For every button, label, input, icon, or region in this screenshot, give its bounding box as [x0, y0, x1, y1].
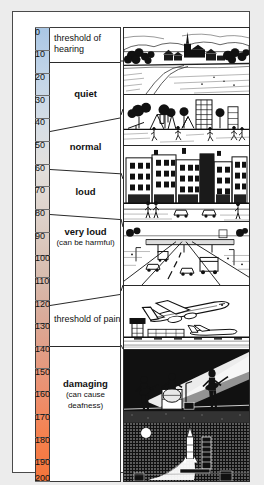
- band-divider: [50, 62, 121, 63]
- band-threshold-of-hearing: threshold of hearing: [50, 33, 121, 55]
- band-divider: [50, 169, 121, 175]
- band-label: damaging: [50, 378, 121, 389]
- band-label: loud: [50, 186, 121, 197]
- noise-source-illustrations: [123, 27, 250, 482]
- band-sublabel: (can cause deafness): [50, 389, 121, 411]
- city-street-scene: [124, 146, 249, 221]
- band-divider: [50, 292, 121, 306]
- band-damaging: damaging (can cause deafness): [50, 378, 121, 411]
- band-label: threshold of pain: [54, 314, 121, 325]
- playground-park-scene: [124, 95, 249, 145]
- airplane-takeoff-scene: [124, 286, 249, 349]
- band-label: quiet: [50, 88, 121, 99]
- band-label: very loud: [50, 226, 121, 237]
- panel-countryside-village: [124, 28, 249, 95]
- panel-rocket-launch: [124, 423, 249, 481]
- motorway-traffic-scene: [124, 222, 249, 285]
- panel-airplane-takeoff: [124, 286, 249, 350]
- band-sublabel: (can be harmful): [50, 237, 121, 248]
- band-label: threshold of hearing: [54, 33, 121, 55]
- band-quiet: quiet: [50, 88, 121, 99]
- band-divider: [50, 214, 121, 220]
- band-normal: normal: [50, 141, 121, 152]
- panel-playground-park: [124, 95, 249, 146]
- band-very-loud: very loud (can be harmful): [50, 226, 121, 248]
- panel-motorway-traffic: [124, 222, 249, 286]
- band-threshold-of-pain: threshold of pain: [50, 314, 121, 325]
- diagram-frame: amount of noise (decibels dB): [12, 11, 250, 473]
- band-loud: loud: [50, 186, 121, 197]
- rocket-launch-scene: [124, 423, 249, 481]
- band-divider: [50, 346, 121, 347]
- noise-band-labels: threshold of hearing quiet normal loud v…: [50, 27, 121, 482]
- band-divider: [50, 116, 121, 132]
- band-label: normal: [50, 141, 121, 152]
- noise-level-diagram: amount of noise (decibels dB): [0, 0, 264, 485]
- panel-rock-concert-stage: [124, 350, 249, 423]
- countryside-village-scene: [124, 28, 249, 94]
- rock-concert-stage-scene: [124, 350, 249, 422]
- panel-city-street: [124, 146, 249, 222]
